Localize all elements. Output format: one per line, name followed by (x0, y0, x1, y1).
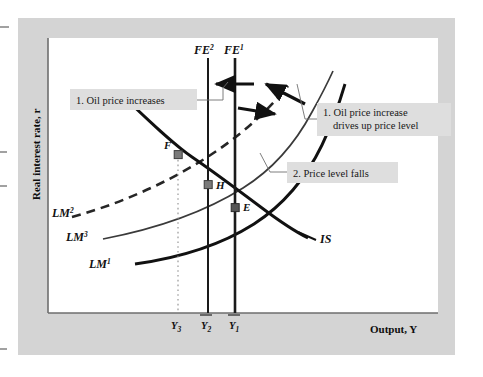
economics-diagram-svg: 1. Oil price increases 1. Oil price incr… (0, 0, 483, 377)
x-axis-title: Output, Y (370, 323, 417, 335)
point-H-marker (204, 181, 212, 189)
callout-price-level-up-line-2: drives up price level (333, 120, 419, 131)
label-point-H: H (215, 179, 225, 191)
callout-oil-price-increases-line-1: 1. Oil price increases (76, 95, 165, 106)
label-point-F: F (163, 139, 172, 151)
point-E-marker (231, 204, 239, 212)
figure-root: 1. Oil price increases 1. Oil price incr… (0, 0, 483, 377)
callout-price-level-up-line-1: 1. Oil price increase (323, 107, 408, 118)
label-IS: IS (319, 232, 332, 246)
label-point-E: E (242, 201, 250, 213)
y-axis-title: Real interest rate, r (30, 108, 42, 200)
callout-price-level-falls-line-1: 2. Price level falls (293, 168, 369, 179)
point-F-marker (174, 151, 182, 159)
